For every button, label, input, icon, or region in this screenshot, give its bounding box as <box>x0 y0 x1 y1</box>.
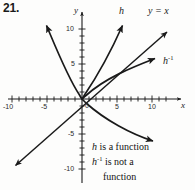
identity-line-label: y = x <box>148 5 169 16</box>
y-tick-label-10: 10 <box>66 25 74 32</box>
caption-line-2: h-1 is not a <box>92 154 192 169</box>
x-tick-label-5: 5 <box>115 103 119 110</box>
caption-line-3: function <box>92 169 192 184</box>
h-inverse-label-exponent: -1 <box>168 54 173 61</box>
caption-line-2-text: is not a <box>102 156 133 167</box>
x-tick-label-10: 10 <box>148 103 156 110</box>
y-tick-label-5: 5 <box>71 60 75 67</box>
caption-line-1-text: is a function <box>97 141 149 152</box>
h-inverse-curve-label: h-1 <box>163 55 173 66</box>
h-curve <box>47 26 123 100</box>
y-axis-label: y <box>74 5 78 15</box>
y-tick-label-neg5: -5 <box>68 130 74 137</box>
y-tick-label-neg10: -10 <box>64 165 74 172</box>
x-tick-label-neg10: -10 <box>3 103 13 110</box>
caption-line-1: h is a function <box>92 139 192 154</box>
figure-container: 21. <box>0 0 195 190</box>
h-curve-label: h <box>119 5 124 16</box>
h-inverse-curve <box>82 59 155 142</box>
x-tick-label-neg5: -5 <box>41 103 47 110</box>
caption-block: h is a function h-1 is not a function <box>92 139 192 184</box>
x-axis-label: x <box>181 100 185 110</box>
y-tick-label-0: 0 <box>85 102 89 109</box>
